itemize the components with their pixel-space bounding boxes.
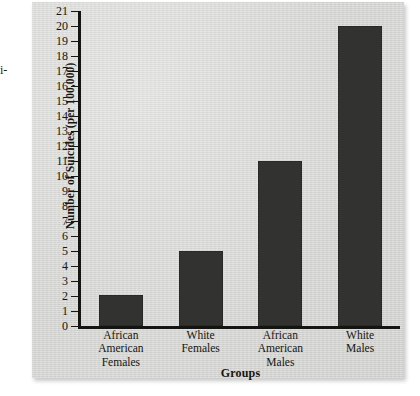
figure-panel: Number of Suicides (per 100,000) 2120191…: [32, 2, 404, 378]
x-axis-category-label-line: African American: [241, 329, 321, 356]
x-axis-category-labels: African AmericanFemalesWhiteFemalesAfric…: [81, 329, 400, 363]
y-axis-tick-mark: [71, 266, 78, 268]
x-axis-title: Groups: [81, 366, 400, 381]
y-axis-tick-label: 7: [34, 215, 68, 227]
y-axis-tick-label: 15: [34, 95, 68, 107]
x-axis-category-label-line: White: [161, 329, 241, 342]
y-axis-tick-label: 10: [34, 170, 68, 182]
y-axis-tick-mark: [71, 251, 78, 253]
y-axis-tick-label: 2: [34, 290, 68, 302]
chart-canvas: Number of Suicides (per 100,000) 2120191…: [32, 2, 404, 378]
y-axis-tick-mark: [71, 41, 78, 43]
page-margin-text: i-: [0, 63, 26, 78]
bar: [338, 26, 382, 326]
y-axis-tick-mark: [71, 101, 78, 103]
y-axis-tick: 1: [32, 305, 78, 317]
y-axis-tick-label: 20: [34, 20, 68, 32]
y-axis-tick-mark: [71, 191, 78, 193]
y-axis-tick-mark: [71, 56, 78, 58]
y-axis-tick-label: 12: [34, 140, 68, 152]
y-axis-tick: 15: [32, 95, 78, 107]
y-axis-tick: 9: [32, 185, 78, 197]
y-axis-tick-mark: [71, 146, 78, 148]
y-axis-tick: 6: [32, 230, 78, 242]
y-axis-tick-mark: [71, 296, 78, 298]
y-axis-tick-label: 6: [34, 230, 68, 242]
y-axis-tick-label: 18: [34, 50, 68, 62]
x-axis-category-label-line: Males: [320, 342, 400, 355]
y-axis-tick-mark: [71, 206, 78, 208]
y-axis-tick-mark: [71, 221, 78, 223]
y-axis-tick-mark: [71, 161, 78, 163]
y-axis-tick-label: 4: [34, 260, 68, 272]
y-axis-tick-label: 8: [34, 200, 68, 212]
x-axis-category-label: WhiteMales: [320, 329, 400, 356]
x-axis-category-label: African AmericanMales: [241, 329, 321, 369]
y-axis-tick-mark: [71, 86, 78, 88]
y-axis-tick: 0: [32, 320, 78, 332]
y-axis-tick: 11: [32, 155, 78, 167]
y-axis-tick-label: 11: [34, 155, 68, 167]
y-axis-tick-mark: [71, 26, 78, 28]
y-axis-tick: 19: [32, 35, 78, 47]
y-axis-tick-label: 0: [34, 320, 68, 332]
y-axis-tick-label: 9: [34, 185, 68, 197]
y-axis-tick: 17: [32, 65, 78, 77]
y-axis-tick-mark: [71, 176, 78, 178]
y-axis-tick: 4: [32, 260, 78, 272]
y-axis-tick-label: 19: [34, 35, 68, 47]
x-axis-category-label-line: Females: [161, 342, 241, 355]
y-axis-tick: 20: [32, 20, 78, 32]
y-axis-tick-mark: [71, 71, 78, 73]
bar: [258, 161, 302, 326]
y-axis-tick: 13: [32, 125, 78, 137]
y-axis-tick-mark: [71, 326, 78, 328]
y-axis-tick-label: 13: [34, 125, 68, 137]
x-axis-category-label: African AmericanFemales: [81, 329, 161, 369]
y-axis-tick-label: 16: [34, 80, 68, 92]
y-axis-tick: 10: [32, 170, 78, 182]
x-axis-category-label-line: White: [320, 329, 400, 342]
y-axis-tick-label: 3: [34, 275, 68, 287]
y-axis-tick: 3: [32, 275, 78, 287]
y-axis-tick: 2: [32, 290, 78, 302]
y-axis-tick: 12: [32, 140, 78, 152]
bar: [179, 251, 223, 326]
y-axis-tick-mark: [71, 116, 78, 118]
y-axis-tick: 21: [32, 5, 78, 17]
y-axis-tick-mark: [71, 311, 78, 313]
y-axis-tick-mark: [71, 281, 78, 283]
y-axis-tick-label: 5: [34, 245, 68, 257]
y-axis-tick: 8: [32, 200, 78, 212]
y-axis-tick-mark: [71, 236, 78, 238]
x-axis-category-label: WhiteFemales: [161, 329, 241, 356]
bar: [99, 295, 143, 327]
plot-area: [81, 11, 400, 326]
y-axis-tick: 16: [32, 80, 78, 92]
y-axis-tick-mark: [71, 11, 78, 13]
y-axis-tick: 18: [32, 50, 78, 62]
y-axis-tick-label: 21: [34, 5, 68, 17]
y-axis-tick-label: 1: [34, 305, 68, 317]
y-axis-tick: 5: [32, 245, 78, 257]
y-axis-tick-label: 14: [34, 110, 68, 122]
y-axis-tick-label: 17: [34, 65, 68, 77]
y-axis-tick: 14: [32, 110, 78, 122]
y-axis-tick: 7: [32, 215, 78, 227]
y-axis-tick-mark: [71, 131, 78, 133]
x-axis-category-label-line: African American: [81, 329, 161, 356]
